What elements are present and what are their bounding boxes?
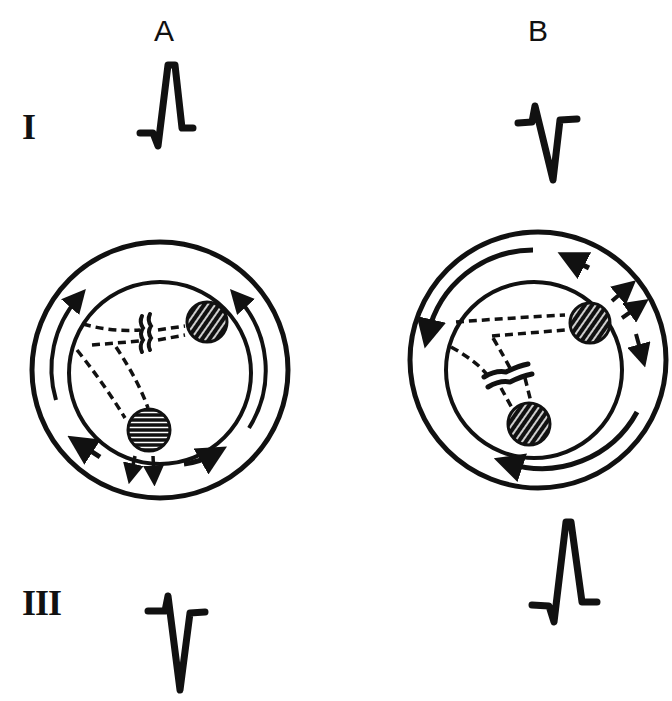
ecg-lead-i-panel-a	[140, 65, 193, 146]
diagram-canvas	[0, 0, 672, 701]
ecg-lead-i-panel-b	[518, 106, 577, 180]
panel-b-upper-node-hatched	[570, 303, 610, 343]
panel-a-schematic	[32, 242, 288, 498]
panel-a-bottom-left-arrow	[80, 444, 100, 457]
panel-a-conduction-block	[141, 314, 151, 352]
panel-b-outward-arrow-1	[612, 288, 627, 301]
panel-b-lower-node-hatched	[508, 403, 550, 445]
panel-b-down-arrow	[636, 334, 642, 356]
panel-a-lower-node-hatched	[128, 409, 170, 451]
panel-b-top-arrow	[571, 259, 589, 268]
panel-a-down-arrow-2	[153, 456, 154, 476]
panel-b-top-left-arc-arrow	[428, 250, 533, 334]
ecg-lead-iii-panel-b	[532, 522, 597, 622]
ecg-lead-iii-panel-a	[148, 596, 205, 690]
panel-b-schematic	[410, 232, 666, 488]
panel-a-upper-node-hatched	[187, 302, 227, 342]
panel-b-outward-arrow-2	[622, 306, 639, 318]
